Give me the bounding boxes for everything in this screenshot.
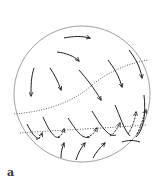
boundary-circle (14, 26, 150, 162)
bottom-upward-arrows (61, 143, 105, 160)
loop-curves (27, 95, 145, 142)
flow-diagram (0, 0, 159, 183)
panel-label: a (7, 166, 14, 179)
flow-arrows (31, 37, 142, 101)
